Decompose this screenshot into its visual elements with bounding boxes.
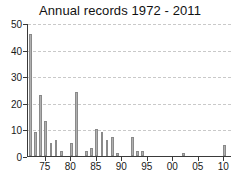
x-tick-mark bbox=[121, 157, 122, 161]
x-tick-mark bbox=[223, 157, 224, 161]
x-tick-mark bbox=[70, 157, 71, 161]
x-tick-mark bbox=[147, 157, 148, 161]
x-tick-label: 90 bbox=[116, 161, 127, 172]
chart-container: Annual records 1972 - 2011 01020304050 7… bbox=[0, 0, 240, 186]
x-tick-label: 00 bbox=[167, 161, 178, 172]
x-tick-mark bbox=[96, 157, 97, 161]
x-tick-mark bbox=[198, 157, 199, 161]
x-tick-label: 05 bbox=[192, 161, 203, 172]
x-axis: 7580859095000510 bbox=[0, 0, 240, 186]
x-tick-label: 85 bbox=[90, 161, 101, 172]
x-tick-label: 80 bbox=[65, 161, 76, 172]
x-tick-label: 95 bbox=[141, 161, 152, 172]
x-tick-mark bbox=[45, 157, 46, 161]
x-tick-label: 75 bbox=[39, 161, 50, 172]
x-tick-label: 10 bbox=[218, 161, 229, 172]
x-tick-mark bbox=[172, 157, 173, 161]
